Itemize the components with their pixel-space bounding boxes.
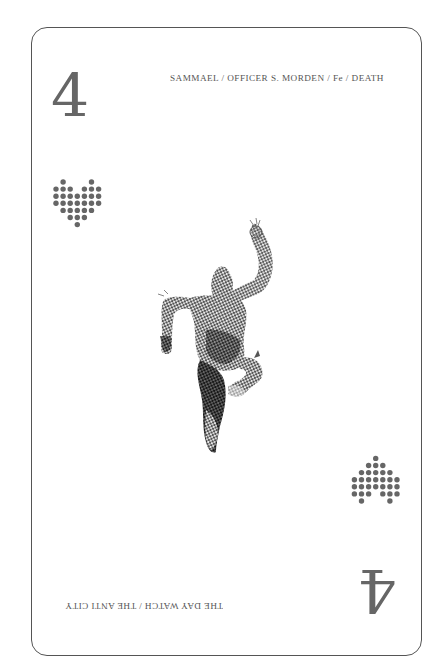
rank-top: 4 bbox=[51, 58, 89, 134]
caption-top: SAMMAEL / OFFICER S. MORDEN / Fe / DEATH bbox=[170, 73, 404, 84]
heart-pip-inverted-icon bbox=[349, 453, 401, 505]
leaping-figure-icon bbox=[150, 210, 290, 460]
heart-pip-icon bbox=[52, 178, 104, 230]
caption-bottom: THE DAY WATCH / THE ANTI CITY bbox=[49, 600, 223, 611]
rank-bottom: 4 bbox=[358, 552, 396, 628]
